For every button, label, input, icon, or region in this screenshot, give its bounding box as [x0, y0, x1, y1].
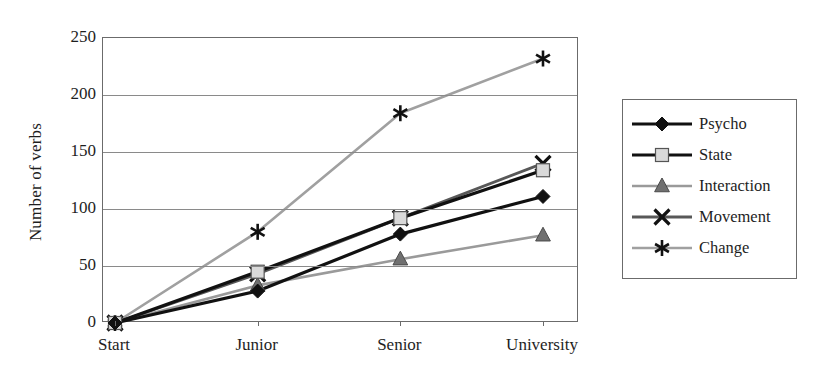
legend-label: Change: [699, 240, 749, 257]
data-point-square: [656, 149, 669, 162]
data-point-square: [537, 164, 550, 177]
y-axis-tick-label: 150: [54, 142, 96, 159]
y-axis-tick-label: 250: [54, 28, 96, 45]
series-layer: [103, 38, 579, 323]
legend-key-psycho: [629, 111, 695, 137]
data-point-diamond: [393, 227, 407, 241]
legend-label: State: [699, 147, 732, 164]
legend-label: Psycho: [699, 116, 747, 133]
x-axis-tick-label: University: [506, 335, 578, 355]
y-axis-tick-labels: 050100150200250: [52, 0, 96, 392]
legend-label: Movement: [699, 209, 771, 226]
legend-item-movement[interactable]: Movement: [629, 204, 794, 230]
y-axis-tick-label: 100: [54, 199, 96, 216]
chart-legend: PsychoStateInteractionMovementChange: [622, 99, 797, 279]
data-point-diamond: [655, 117, 669, 131]
gridline: [103, 209, 577, 210]
x-axis-tick-labels: StartJuniorSeniorUniversity: [102, 335, 578, 365]
legend-key-state: [629, 142, 695, 168]
data-point-triangle: [536, 227, 551, 241]
legend-item-state[interactable]: State: [629, 142, 794, 168]
x-axis-tick-label: Junior: [235, 335, 278, 355]
legend-item-psycho[interactable]: Psycho: [629, 111, 794, 137]
chart-figure: Number of verbs 050100150200250 StartJun…: [0, 0, 830, 392]
data-point-asterisk: [536, 51, 550, 67]
x-axis-tick-mark: [115, 321, 116, 326]
x-axis-tick-mark: [400, 321, 401, 326]
legend-key-change: [629, 235, 695, 261]
x-axis-tick-label: Senior: [377, 335, 421, 355]
legend-item-change[interactable]: Change: [629, 235, 794, 261]
data-point-diamond: [536, 189, 550, 203]
series-line-psycho: [115, 196, 543, 323]
y-axis-title: Number of verbs: [26, 87, 46, 277]
data-point-square: [251, 265, 264, 278]
x-axis-tick-label: Start: [98, 335, 130, 355]
x-axis-tick-mark: [543, 321, 544, 326]
y-axis-tick-label: 200: [54, 85, 96, 102]
x-axis-tick-mark: [258, 321, 259, 326]
legend-item-interaction[interactable]: Interaction: [629, 173, 794, 199]
y-axis-tick-label: 0: [54, 313, 96, 330]
y-axis-tick-label: 50: [54, 256, 96, 273]
legend-key-interaction: [629, 173, 695, 199]
gridline: [103, 266, 577, 267]
data-point-square: [394, 212, 407, 225]
series-lines: [115, 59, 543, 323]
legend-label: Interaction: [699, 178, 770, 195]
legend-key-movement: [629, 204, 695, 230]
plot-area: [102, 37, 578, 322]
gridline: [103, 152, 577, 153]
gridline: [103, 95, 577, 96]
